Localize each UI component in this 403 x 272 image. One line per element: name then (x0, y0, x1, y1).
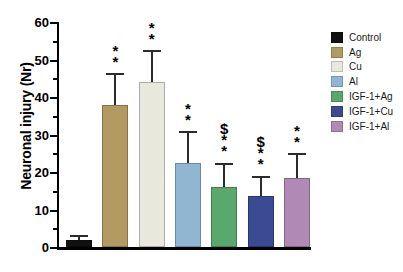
legend-label: IGF-1+Al (349, 121, 389, 132)
bar-chart-figure: Neuronal injury (Nr) 0102030405060 * ** … (0, 0, 403, 272)
error-bar (187, 131, 189, 163)
legend-label: IGF-1+Cu (349, 106, 393, 117)
y-tick-major (50, 97, 57, 99)
legend-item-igf-1-plus-al: IGF-1+Al (331, 119, 403, 134)
y-tick-major (50, 247, 57, 249)
error-bar (223, 163, 225, 187)
legend-swatch-icon (331, 121, 343, 132)
y-tick-minor (53, 78, 57, 80)
y-tick-label: 60 (35, 15, 49, 30)
legend-swatch-icon (331, 91, 343, 102)
y-tick-label: 30 (35, 127, 49, 142)
legend-item-control: Control (331, 30, 403, 45)
significance-marker: * * (138, 22, 166, 44)
y-tick-major (50, 60, 57, 62)
y-tick-label: 0 (42, 240, 49, 255)
legend-item-al: Al (331, 74, 403, 89)
legend-label: IGF-1+Ag (349, 91, 393, 102)
error-bar (114, 73, 116, 105)
error-bar (296, 153, 298, 177)
legend-swatch-icon (331, 61, 343, 72)
bar-igf-1-plus-cu (248, 196, 274, 247)
y-tick-minor (53, 41, 57, 43)
legend-item-igf-1-plus-cu: IGF-1+Cu (331, 104, 403, 119)
y-tick-minor (53, 228, 57, 230)
error-bar-cap (252, 176, 270, 178)
error-bar-cap (288, 153, 306, 155)
y-axis-title: Neuronal injury (Nr) (18, 26, 34, 226)
significance-marker: * * (174, 103, 202, 125)
legend-item-ag: Ag (331, 45, 403, 60)
legend-label: Cu (349, 61, 362, 72)
y-tick-major (50, 210, 57, 212)
bar-igf-1-plus-ag (211, 187, 237, 247)
error-bar-cap (70, 235, 88, 237)
legend-label: Control (349, 32, 381, 43)
error-bar-cap (179, 131, 197, 133)
error-bar-cap (215, 163, 233, 165)
bar-ag (102, 105, 128, 248)
y-tick-major (50, 172, 57, 174)
y-tick-label: 40 (35, 90, 49, 105)
legend: ControlAgCuAlIGF-1+AgIGF-1+CuIGF-1+Al (331, 30, 403, 134)
y-tick-label: 20 (35, 165, 49, 180)
error-bar (151, 50, 153, 82)
legend-swatch-icon (331, 106, 343, 117)
significance-marker: * * (283, 125, 311, 147)
y-tick-label: 10 (35, 202, 49, 217)
plot-area: 0102030405060 * ** ** *$ * *$ * ** * (57, 22, 311, 247)
y-tick-major (50, 22, 57, 24)
significance-marker: * * (101, 45, 129, 67)
legend-label: Al (349, 76, 358, 87)
y-tick-minor (53, 153, 57, 155)
y-tick-minor (53, 116, 57, 118)
y-tick-major (50, 135, 57, 137)
significance-marker: $ * * (247, 136, 275, 169)
legend-item-cu: Cu (331, 60, 403, 75)
bar-al (175, 163, 201, 247)
legend-label: Ag (349, 47, 361, 58)
error-bar (260, 176, 262, 197)
x-axis-line (57, 247, 311, 250)
significance-marker: $ * * (210, 123, 238, 156)
bar-igf-1-plus-al (284, 178, 310, 247)
y-tick-label: 50 (35, 52, 49, 67)
error-bar-cap (143, 50, 161, 52)
legend-swatch-icon (331, 76, 343, 87)
bar-control (66, 240, 92, 248)
error-bar-cap (106, 73, 124, 75)
y-tick-minor (53, 191, 57, 193)
legend-swatch-icon (331, 47, 343, 58)
bar-cu (139, 82, 165, 247)
y-axis-line (57, 22, 59, 247)
legend-swatch-icon (331, 32, 343, 43)
legend-item-igf-1-plus-ag: IGF-1+Ag (331, 89, 403, 104)
